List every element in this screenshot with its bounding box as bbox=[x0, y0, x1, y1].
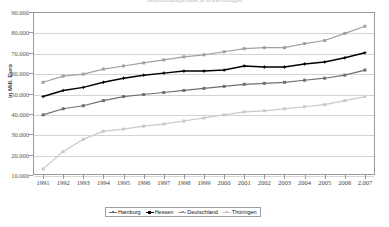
x-tick-label: 2.007 bbox=[358, 178, 373, 187]
x-tick-mark bbox=[305, 175, 306, 179]
line-chart: Bruttoinlandsprodukt je Erwerbstätigen i… bbox=[0, 0, 389, 227]
x-tick-label: 1993 bbox=[77, 178, 90, 187]
chart-title: Bruttoinlandsprodukt je Erwerbstätigen bbox=[0, 0, 389, 4]
chart-legend: HamburgHessenDeutschlandThüringen bbox=[105, 207, 261, 217]
x-tick-label: 1998 bbox=[177, 178, 190, 187]
x-tick-label: 2004 bbox=[298, 178, 311, 187]
x-tick-mark bbox=[325, 175, 326, 179]
x-tick-label: 1992 bbox=[57, 178, 70, 187]
x-tick-label: 1996 bbox=[137, 178, 150, 187]
gridline bbox=[34, 156, 374, 157]
x-axis: 1991199219931994199519961997199819992000… bbox=[0, 178, 389, 190]
y-tick-label: 30.000 bbox=[11, 131, 29, 138]
x-tick-mark bbox=[83, 175, 84, 179]
x-tick-label: 2005 bbox=[318, 178, 331, 187]
x-tick-label: 1994 bbox=[97, 178, 110, 187]
x-tick-label: 1995 bbox=[117, 178, 130, 187]
y-tick-label: 40.000 bbox=[11, 110, 29, 117]
gridline bbox=[34, 115, 374, 116]
x-tick-mark bbox=[365, 175, 366, 179]
y-tick-label: 70.000 bbox=[11, 49, 29, 56]
x-tick-mark bbox=[164, 175, 165, 179]
legend-label: Deutschland bbox=[187, 209, 218, 215]
gridline bbox=[34, 74, 374, 75]
y-tick-mark bbox=[29, 175, 33, 176]
x-tick-mark bbox=[144, 175, 145, 179]
plot-area bbox=[33, 12, 375, 175]
x-tick-mark bbox=[184, 175, 185, 179]
gridline bbox=[34, 95, 374, 96]
x-tick-mark bbox=[43, 175, 44, 179]
legend-label: Hessen bbox=[155, 209, 174, 215]
x-tick-label: 2002 bbox=[258, 178, 271, 187]
x-tick-mark bbox=[124, 175, 125, 179]
x-tick-mark bbox=[345, 175, 346, 179]
legend-label: Hamburg bbox=[118, 209, 141, 215]
y-axis: in Mill. Euro 10.00020.00030.00040.00050… bbox=[0, 0, 33, 190]
y-tick-label: 90.000 bbox=[11, 9, 29, 16]
legend-item-hamburg[interactable]: Hamburg bbox=[109, 209, 141, 215]
x-tick-mark bbox=[224, 175, 225, 179]
y-tick-label: 50.000 bbox=[11, 90, 29, 97]
x-tick-mark bbox=[204, 175, 205, 179]
legend-label: Thüringen bbox=[232, 209, 257, 215]
x-tick-label: 2000 bbox=[218, 178, 231, 187]
x-tick-mark bbox=[284, 175, 285, 179]
x-tick-label: 2003 bbox=[278, 178, 291, 187]
gridline bbox=[34, 135, 374, 136]
y-axis-title: in Mill. Euro bbox=[7, 52, 13, 110]
x-tick-label: 1991 bbox=[37, 178, 50, 187]
gridline bbox=[34, 54, 374, 55]
x-tick-label: 2001 bbox=[238, 178, 251, 187]
y-tick-label: 20.000 bbox=[11, 151, 29, 158]
y-tick-label: 80.000 bbox=[11, 29, 29, 36]
x-tick-mark bbox=[63, 175, 64, 179]
x-tick-mark bbox=[264, 175, 265, 179]
legend-item-hessen[interactable]: Hessen bbox=[146, 209, 174, 215]
x-tick-label: 1997 bbox=[157, 178, 170, 187]
x-tick-mark bbox=[103, 175, 104, 179]
x-tick-mark bbox=[244, 175, 245, 179]
x-tick-label: 2006 bbox=[338, 178, 351, 187]
y-tick-label: 60.000 bbox=[11, 70, 29, 77]
legend-item-deutschland[interactable]: Deutschland bbox=[178, 209, 218, 215]
gridline bbox=[34, 33, 374, 34]
legend-item-thüringen[interactable]: Thüringen bbox=[223, 209, 257, 215]
x-tick-label: 1999 bbox=[198, 178, 211, 187]
